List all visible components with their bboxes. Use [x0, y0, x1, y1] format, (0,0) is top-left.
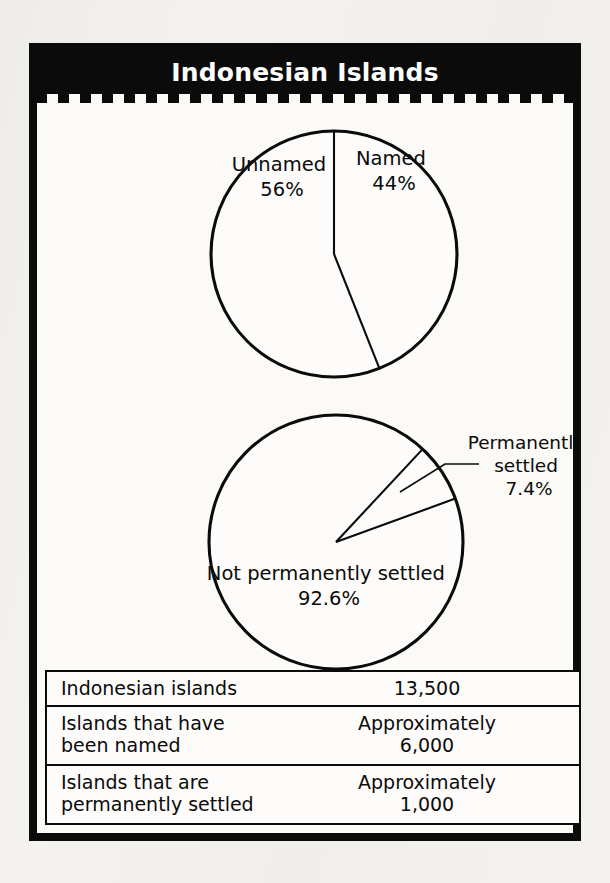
summary-table: Indonesian islands 13,500 Islands that h… [45, 670, 581, 825]
table-cell-label: Islands that are permanently settled [47, 771, 309, 817]
table-cell-value: Approximately 6,000 [309, 712, 579, 758]
pie-chart-named-unnamed: Unnamed 56% Named 44% [211, 131, 457, 377]
table-cell-value: 13,500 [309, 677, 579, 699]
table-cell-label: Islands that have been named [47, 712, 309, 758]
table-row: Islands that are permanently settled App… [45, 764, 581, 825]
table-cell-value: Approximately 1,000 [309, 771, 579, 817]
pie-2-callout-label-permanently-settled: Permanently settled 7.4% [468, 432, 581, 499]
table-cell-label: Indonesian islands [47, 677, 309, 699]
table-row: Islands that have been named Approximate… [45, 705, 581, 764]
pie-chart-settlement: Permanently settled 7.4% Not permanently… [207, 415, 581, 669]
figure-frame: Indonesian Islands Unnamed 56% Named 44% [29, 43, 581, 841]
table-row: Indonesian islands 13,500 [45, 670, 581, 705]
